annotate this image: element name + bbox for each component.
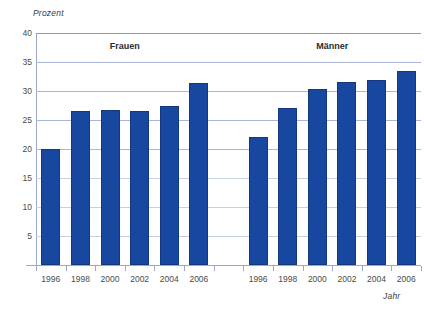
- x-tick-label-frauen-1998: 1998: [71, 274, 90, 284]
- bar-frauen-1998: [71, 111, 90, 265]
- gridline-35: [36, 62, 421, 63]
- gridline-30: [36, 91, 421, 92]
- x-tick-mark-11: [362, 266, 363, 271]
- group-title-männer: Männer: [316, 41, 348, 51]
- x-tick-mark-1: [66, 266, 67, 271]
- x-tick-label-frauen-1996: 1996: [41, 274, 60, 284]
- x-tick-label-männer-1998: 1998: [278, 274, 297, 284]
- bar-männer-2006: [397, 71, 416, 265]
- y-tick-label-40: 40: [12, 28, 32, 38]
- x-tick-label-männer-2000: 2000: [308, 274, 327, 284]
- x-tick-label-männer-1996: 1996: [249, 274, 268, 284]
- x-tick-label-männer-2006: 2006: [397, 274, 416, 284]
- group-title-frauen: Frauen: [110, 41, 140, 51]
- bar-männer-2002: [337, 82, 356, 265]
- gridline-5: [36, 236, 421, 237]
- x-axis-title: Jahr: [383, 291, 400, 301]
- bar-frauen-2002: [130, 111, 149, 265]
- y-tick-label-25: 25: [12, 115, 32, 125]
- y-axis-ticks: 403530252015105: [8, 33, 32, 265]
- x-tick-mark-7: [243, 266, 244, 271]
- x-tick-label-frauen-2004: 2004: [160, 274, 179, 284]
- x-tick-mark-12: [391, 266, 392, 271]
- y-tick-label-10: 10: [12, 202, 32, 212]
- bar-frauen-2004: [160, 106, 179, 265]
- y-axis-title: Prozent: [33, 8, 64, 18]
- bar-frauen-2000: [101, 110, 120, 265]
- x-tick-mark-10: [332, 266, 333, 271]
- x-tick-label-männer-2002: 2002: [337, 274, 356, 284]
- x-tick-label-frauen-2002: 2002: [130, 274, 149, 284]
- x-tick-mark-3: [125, 266, 126, 271]
- bar-männer-1996: [249, 137, 268, 265]
- y-tick-label-20: 20: [12, 144, 32, 154]
- x-tick-mark-13: [421, 266, 422, 271]
- gridline-20: [36, 149, 421, 150]
- x-tick-label-männer-2004: 2004: [367, 274, 386, 284]
- x-tick-mark-6: [214, 266, 215, 271]
- y-tick-label-15: 15: [12, 173, 32, 183]
- x-tick-mark-0: [36, 266, 37, 271]
- gridline-15: [36, 178, 421, 179]
- x-tick-label-frauen-2006: 2006: [189, 274, 208, 284]
- y-tick-label-5: 5: [12, 231, 32, 241]
- y-tick-label-30: 30: [12, 86, 32, 96]
- gridline-40: [36, 33, 421, 34]
- y-tick-label-35: 35: [12, 57, 32, 67]
- bar-männer-2000: [308, 89, 327, 265]
- x-tick-mark-8: [273, 266, 274, 271]
- bar-männer-1998: [278, 108, 297, 265]
- x-tick-mark-9: [303, 266, 304, 271]
- gridline-10: [36, 207, 421, 208]
- plot-area: [36, 33, 421, 265]
- bar-chart: Prozent 403530252015105 Jahr 19961998200…: [0, 0, 424, 312]
- bar-frauen-2006: [189, 83, 208, 265]
- bar-frauen-1996: [41, 149, 60, 265]
- x-tick-mark-5: [184, 266, 185, 271]
- x-tick-mark-2: [95, 266, 96, 271]
- x-tick-label-frauen-2000: 2000: [101, 274, 120, 284]
- bar-männer-2004: [367, 80, 386, 265]
- gridline-25: [36, 120, 421, 121]
- x-tick-mark-4: [154, 266, 155, 271]
